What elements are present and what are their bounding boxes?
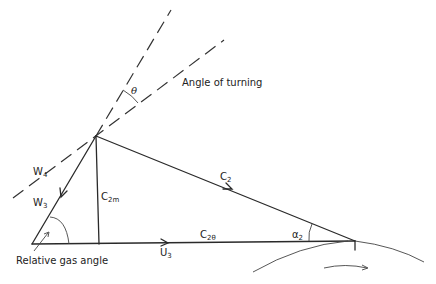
label-w3: W3 bbox=[33, 197, 47, 210]
label-c2theta: C2θ bbox=[200, 229, 216, 242]
label-w4: W4 bbox=[33, 166, 48, 179]
w3-arrowhead-icon bbox=[60, 188, 67, 197]
velocity-triangle-diagram: Angle of turning θ W4 W3 C2m C2 C2θ α2 U… bbox=[0, 0, 436, 284]
u3-baseline bbox=[32, 241, 355, 244]
label-c2m: C2m bbox=[101, 191, 119, 204]
label-u3: U3 bbox=[160, 247, 172, 260]
label-theta: θ bbox=[131, 85, 137, 96]
label-c2: C2 bbox=[220, 171, 231, 184]
alpha2-arc bbox=[309, 224, 312, 241]
steep-dashed-line bbox=[96, 10, 171, 136]
rotation-arrow bbox=[324, 266, 367, 269]
label-alpha2: α2 bbox=[292, 229, 303, 242]
relative-gas-angle-pointer bbox=[34, 233, 48, 251]
w3-vector-line bbox=[32, 136, 96, 244]
c2m-vector-line bbox=[96, 136, 99, 244]
blade-curve-lower bbox=[253, 241, 348, 272]
relative-gas-angle-arc bbox=[50, 217, 69, 244]
label-angle-of-turning: Angle of turning bbox=[182, 77, 262, 88]
blade-curve-upper bbox=[355, 241, 424, 262]
label-relative-gas-angle: Relative gas angle bbox=[16, 255, 108, 266]
